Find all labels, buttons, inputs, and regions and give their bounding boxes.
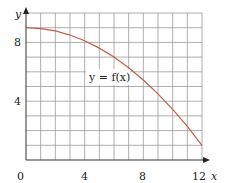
y-tick-8: 8 xyxy=(14,36,21,49)
x-tick-4: 4 xyxy=(81,170,88,183)
x-tick-0: 0 xyxy=(17,170,24,183)
x-tick-8: 8 xyxy=(139,170,146,183)
curve-label: y = f(x) xyxy=(88,71,130,84)
y-axis-label: y xyxy=(14,8,22,21)
x-tick-12: 12 xyxy=(192,170,206,183)
grid-lines xyxy=(26,13,202,160)
x-axis-label: x xyxy=(211,170,218,183)
chart: y = f(x) 0 4 8 12 x 8 4 y xyxy=(0,0,226,183)
y-tick-4: 4 xyxy=(14,95,21,108)
y-axis-arrow-icon xyxy=(23,7,29,14)
x-axis-arrow-icon xyxy=(203,157,210,163)
